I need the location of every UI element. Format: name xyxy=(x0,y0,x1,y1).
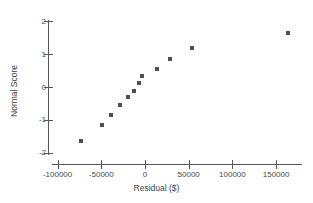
data-point xyxy=(126,95,130,99)
x-tick-mark xyxy=(145,160,146,169)
normal-probability-plot: 210-1-2 -100000-50000050000100000150000 … xyxy=(0,0,313,203)
x-axis-line xyxy=(52,164,302,165)
y-tick-label: 2 xyxy=(6,17,46,26)
x-tick-mark xyxy=(58,160,59,169)
data-point xyxy=(286,31,290,35)
x-tick-mark xyxy=(189,160,190,169)
data-point xyxy=(79,139,83,143)
data-point xyxy=(140,74,144,78)
data-point xyxy=(155,67,159,71)
x-tick-mark xyxy=(276,160,277,169)
data-point xyxy=(132,89,136,93)
data-point xyxy=(137,81,141,85)
x-tick-mark xyxy=(101,160,102,169)
y-tick-label: -2 xyxy=(6,148,46,157)
data-point xyxy=(118,103,122,107)
data-point xyxy=(100,123,104,127)
x-tick-mark xyxy=(232,160,233,169)
x-tick-label: 150000 xyxy=(246,170,306,179)
data-point xyxy=(168,57,172,61)
data-point xyxy=(190,46,194,50)
y-axis-title: Normal Score xyxy=(9,41,19,141)
data-point xyxy=(109,113,113,117)
plot-area: 210-1-2 -100000-50000050000100000150000 … xyxy=(0,0,313,203)
x-axis-title: Residual ($) xyxy=(0,183,313,193)
